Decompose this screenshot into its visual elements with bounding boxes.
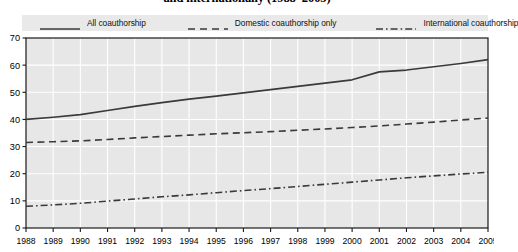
x-tick-label: 1997 [261,236,280,246]
y-tick-label: 0 [15,223,20,233]
y-axis-tick-labels: 010203040506070 [10,33,20,233]
y-tick-label: 60 [10,61,20,71]
x-tick-label: 1988 [16,236,35,246]
y-tick-label: 10 [10,196,20,206]
x-tick-label: 1994 [179,236,198,246]
x-tick-label: 1998 [288,236,307,246]
y-tick-label: 70 [10,33,20,43]
y-tick-label: 50 [10,88,20,98]
y-tick-label: 20 [10,169,20,179]
y-tick-label: 30 [10,142,20,152]
x-tick-label: 1999 [315,236,334,246]
x-axis-tick-labels: 1988198919901991199219931994199519961997… [16,236,494,246]
x-tick-label: 2001 [370,236,389,246]
x-tick-label: 1996 [234,236,253,246]
x-tick-label: 1995 [207,236,226,246]
x-tick-label: 2004 [451,236,470,246]
x-tick-label: 1990 [71,236,90,246]
x-tick-label: 1989 [44,236,63,246]
x-tick-label: 2003 [424,236,443,246]
x-tick-label: 1993 [152,236,171,246]
plot-background [26,38,488,228]
x-tick-label: 2002 [397,236,416,246]
x-tick-label: 2000 [343,236,362,246]
x-tick-label: 2005 [478,236,494,246]
x-tick-label: 1991 [98,236,117,246]
x-tick-label: 1992 [125,236,144,246]
y-tick-label: 40 [10,115,20,125]
